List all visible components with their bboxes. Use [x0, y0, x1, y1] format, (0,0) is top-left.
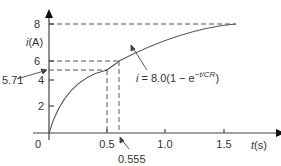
annotation-0555: 0.555 — [118, 153, 146, 165]
y-axis-label: i(A) — [26, 36, 43, 48]
tick-y-6: 6 — [34, 55, 40, 67]
x-axis-label: t(s) — [251, 139, 267, 151]
tick-y-4: 4 — [38, 74, 44, 86]
tick-x-05: 0.5 — [99, 138, 114, 150]
y-axis-arrow-icon — [45, 9, 53, 18]
tick-y-8: 8 — [34, 18, 40, 30]
tick-y-2: 2 — [38, 100, 44, 112]
x-axis-arrow-icon — [276, 129, 281, 137]
chart: 8 6 4 2 0 0.5 1.0 1.5 5.71 0.555 i(A) t(… — [0, 0, 281, 166]
tick-x-10: 1.0 — [157, 138, 172, 150]
tick-origin: 0 — [35, 138, 41, 150]
tick-x-15: 1.5 — [216, 138, 231, 150]
equation-label: i = 8.0(1 − e−t/CR) — [136, 70, 219, 84]
annotation-571: 5.71 — [2, 74, 23, 86]
